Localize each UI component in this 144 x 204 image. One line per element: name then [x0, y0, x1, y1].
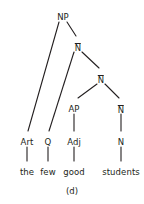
syntax-tree-figure: NPNNAPNArtQAdjN thefewgoodstudents (d) — [0, 0, 144, 204]
tree-node-ap: AP — [68, 104, 79, 114]
tree-node-np: NP — [57, 12, 69, 22]
tree-node-nbar2: N — [98, 74, 104, 85]
tree-word-the: the — [20, 167, 34, 177]
tree-node-n: N — [118, 137, 124, 147]
tree-node-label-text: N — [75, 43, 81, 53]
tree-node-art: Art — [21, 137, 34, 147]
tree-word-good: good — [63, 167, 85, 177]
tree-word-students: students — [102, 167, 140, 177]
tree-node-nbar3: N — [118, 104, 124, 115]
tree-node-label-text: N — [118, 105, 124, 115]
tree-branch — [67, 22, 76, 36]
tree-node-q: Q — [45, 137, 52, 147]
tree-node-adj: Adj — [67, 137, 81, 147]
figure-caption: (d) — [66, 186, 78, 196]
tree-branch — [105, 84, 119, 98]
tree-node-nbar1: N — [75, 42, 81, 53]
tree-branch — [49, 52, 74, 131]
tree-branch — [78, 84, 97, 98]
tree-word-few: few — [40, 167, 55, 177]
tree-branch — [82, 52, 99, 68]
tree-node-label-text: N — [98, 75, 104, 85]
